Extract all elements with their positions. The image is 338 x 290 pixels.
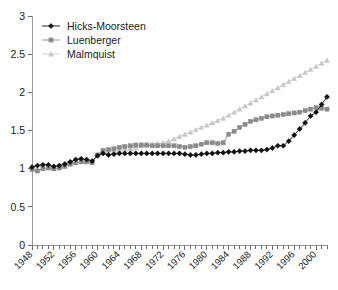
data-point-marker <box>248 119 252 123</box>
legend-item-luenberger: Luenberger <box>42 34 121 46</box>
x-tick-label-group: 1956 <box>55 249 78 272</box>
x-tick-label-group: 1972 <box>143 249 166 272</box>
data-point-marker <box>193 127 198 132</box>
x-tick-label: 1956 <box>55 249 78 272</box>
series-line <box>32 97 327 167</box>
x-tick-label-group: 2000 <box>296 249 319 272</box>
data-point-marker <box>237 149 242 154</box>
data-point-marker <box>298 110 302 114</box>
data-point-marker <box>286 79 291 84</box>
x-tick-label-group: 1976 <box>165 249 188 272</box>
data-point-marker <box>112 147 116 151</box>
x-tick-label-group: 1948 <box>12 249 35 272</box>
y-tick-label: 0 <box>19 239 25 251</box>
data-point-marker <box>210 141 214 145</box>
data-point-marker <box>204 151 209 156</box>
data-point-marker <box>123 144 127 148</box>
data-point-marker <box>259 148 264 153</box>
data-point-marker <box>297 73 302 78</box>
data-point-marker <box>259 116 263 120</box>
x-tick-label: 2000 <box>296 249 319 272</box>
data-point-marker <box>182 152 187 157</box>
data-point-marker <box>161 151 166 156</box>
data-point-marker <box>166 144 170 148</box>
chart-canvas: 00.511.522.53194819521956196019641968197… <box>0 0 338 290</box>
x-tick-label-group: 1980 <box>187 249 210 272</box>
y-tick-label: 2.5 <box>10 48 25 60</box>
legend-label: Malmquist <box>67 48 115 60</box>
x-tick-label: 1948 <box>12 249 35 272</box>
data-point-marker <box>242 149 247 154</box>
x-tick-label-group: 1952 <box>34 249 57 272</box>
data-point-marker <box>139 151 144 156</box>
data-point-marker <box>221 150 226 155</box>
data-point-marker <box>215 150 220 155</box>
x-tick-label: 1992 <box>252 249 275 272</box>
data-point-marker <box>166 139 171 144</box>
data-point-marker <box>308 67 313 72</box>
y-tick-label: 3 <box>19 10 25 22</box>
data-point-marker <box>194 144 198 148</box>
data-point-marker <box>216 141 220 145</box>
data-point-marker <box>188 144 192 148</box>
data-point-marker <box>172 136 177 141</box>
data-point-marker <box>145 143 149 147</box>
data-point-marker <box>319 61 324 66</box>
data-point-marker <box>227 132 231 136</box>
data-point-marker <box>232 149 237 154</box>
x-tick-label-group: 1996 <box>274 249 297 272</box>
data-point-marker <box>193 152 198 157</box>
data-point-marker <box>221 141 225 145</box>
data-point-marker <box>292 76 297 81</box>
x-tick-label-group: 1960 <box>77 249 100 272</box>
data-point-marker <box>287 112 291 116</box>
data-point-marker <box>161 144 165 148</box>
data-point-marker <box>265 115 269 119</box>
data-point-marker <box>281 112 285 116</box>
x-tick-label: 1960 <box>77 249 100 272</box>
data-point-marker <box>232 129 236 133</box>
data-point-marker <box>35 163 40 168</box>
x-tick-label: 1996 <box>274 249 297 272</box>
legend-marker <box>48 23 53 28</box>
data-point-marker <box>276 113 280 117</box>
legend-marker <box>49 38 53 42</box>
data-point-marker <box>188 152 193 157</box>
data-point-marker <box>325 107 329 111</box>
data-point-marker <box>150 144 154 148</box>
data-point-marker <box>199 142 203 146</box>
data-point-marker <box>270 88 275 93</box>
data-point-marker <box>188 130 193 135</box>
x-tick-label: 1980 <box>187 249 210 272</box>
x-tick-label-group: 1968 <box>121 249 144 272</box>
data-point-marker <box>171 151 176 156</box>
y-tick-label: 2 <box>19 86 25 98</box>
data-point-marker <box>314 64 319 69</box>
data-point-marker <box>182 132 187 137</box>
x-tick-label-group: 1984 <box>208 249 231 272</box>
data-point-marker <box>150 151 155 156</box>
data-point-marker <box>177 144 181 148</box>
data-point-marker <box>248 101 253 106</box>
chart-legend: Hicks-MoorsteenLuenbergerMalmquist <box>42 20 146 60</box>
data-point-marker <box>243 104 248 109</box>
data-point-marker <box>199 152 204 157</box>
data-point-marker <box>264 91 269 96</box>
data-point-marker <box>117 145 121 149</box>
data-point-marker <box>254 118 258 122</box>
data-point-marker <box>248 148 253 153</box>
data-point-marker <box>270 145 275 150</box>
data-point-marker <box>133 151 138 156</box>
data-point-marker <box>128 144 132 148</box>
data-point-marker <box>275 143 280 148</box>
series-hicks-moorsteen <box>29 94 329 169</box>
data-point-marker <box>237 125 241 129</box>
x-tick-label: 1968 <box>121 249 144 272</box>
x-tick-label: 1972 <box>143 249 166 272</box>
x-tick-label: 1984 <box>208 249 231 272</box>
x-tick-label: 1952 <box>34 249 57 272</box>
x-tick-label-group: 1964 <box>99 249 122 272</box>
legend-label: Luenberger <box>67 34 121 46</box>
data-point-marker <box>259 94 264 99</box>
data-point-marker <box>314 106 318 110</box>
